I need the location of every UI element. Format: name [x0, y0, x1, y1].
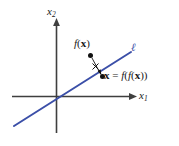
y-axis-label: x2: [47, 6, 56, 19]
connector-segment: [92, 58, 100, 72]
xffx-equals: =: [110, 69, 122, 81]
y-axis: [53, 18, 60, 133]
y-axis-label-subscript: 2: [52, 10, 56, 19]
figure-canvas: [0, 0, 179, 146]
point-x-ffx-label: x = f(f(x)): [104, 70, 148, 81]
y-axis-arrowhead: [53, 18, 60, 26]
point-fx-dot: [88, 53, 93, 58]
x-axis: [12, 93, 137, 100]
xffx-close-outer: ): [144, 69, 148, 81]
x-axis-arrowhead: [129, 93, 137, 100]
x-axis-label: x1: [139, 90, 148, 103]
reflection-figure: x2 x1 f(x) x = f(f(x)) ℓ: [0, 0, 179, 146]
line-ell-label: ℓ: [131, 42, 136, 53]
line-ell: [14, 52, 131, 126]
fx-close-paren: ): [86, 37, 90, 49]
x-axis-label-subscript: 1: [144, 94, 148, 103]
point-fx-label: f(x): [74, 38, 90, 49]
